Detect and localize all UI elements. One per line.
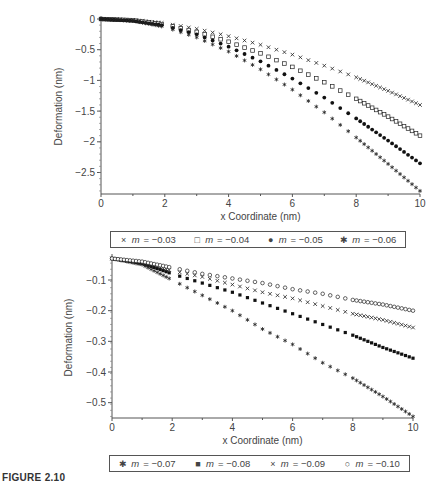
svg-text:−2.5: −2.5 [75, 167, 95, 178]
filled-square-marker-icon: ■ [194, 459, 202, 469]
x-marker-icon: × [269, 459, 277, 469]
figure-caption: FIGURE 2.10 [2, 472, 65, 483]
top-deformation-plot: 02468100−0.5−1−1.5−2−2.5x Coordinate (nm… [0, 0, 439, 230]
svg-text:10: 10 [407, 422, 419, 433]
svg-text:−0.1: −0.1 [86, 275, 106, 286]
legend-item: ×m = −0.09 [269, 458, 325, 469]
data-series [99, 17, 422, 137]
svg-text:0: 0 [98, 198, 104, 209]
bottom-deformation-plot: 0246810−0.1−0.2−0.3−0.4−0.5x Coordinate … [0, 240, 439, 455]
svg-text:0: 0 [109, 422, 115, 433]
bottom-legend: ✱m = −0.07 ■m = −0.08 ×m = −0.09 ○m = −0… [109, 455, 410, 472]
data-series [110, 257, 415, 330]
x-axis-label: x Coordinate (nm) [222, 435, 302, 446]
axes: 0246810−0.1−0.2−0.3−0.4−0.5x Coordinate … [63, 254, 419, 446]
legend-item: ○m = −0.10 [344, 458, 400, 469]
y-axis-label: Deformation (nm) [63, 299, 74, 377]
y-axis-label: Deformation (nm) [53, 68, 64, 146]
svg-text:−0.2: −0.2 [86, 305, 106, 316]
svg-text:−0.3: −0.3 [86, 336, 106, 347]
svg-text:6: 6 [290, 198, 296, 209]
svg-text:−0.5: −0.5 [75, 44, 95, 55]
svg-text:8: 8 [353, 198, 359, 209]
star-marker-icon: ✱ [119, 459, 127, 469]
data-series [99, 17, 422, 165]
svg-text:−0.5: −0.5 [86, 397, 106, 408]
svg-text:10: 10 [414, 198, 426, 209]
svg-text:6: 6 [290, 422, 296, 433]
legend-item: ✱m = −0.07 [119, 458, 175, 469]
svg-text:0: 0 [89, 14, 95, 25]
data-series [110, 257, 414, 360]
svg-text:2: 2 [162, 198, 168, 209]
svg-text:8: 8 [350, 422, 356, 433]
svg-text:4: 4 [226, 198, 232, 209]
open-circle-marker-icon: ○ [344, 459, 352, 469]
legend-item: ■m = −0.08 [194, 458, 250, 469]
x-axis-label: x Coordinate (nm) [220, 211, 300, 222]
svg-text:−2: −2 [84, 136, 96, 147]
data-series [99, 17, 422, 193]
svg-text:−1.5: −1.5 [75, 106, 95, 117]
svg-text:−1: −1 [84, 75, 96, 86]
svg-text:4: 4 [230, 422, 236, 433]
data-series [110, 257, 415, 419]
axes: 02468100−0.5−1−1.5−2−2.5x Coordinate (nm… [53, 14, 426, 223]
svg-text:−0.4: −0.4 [86, 367, 106, 378]
svg-text:2: 2 [169, 422, 175, 433]
